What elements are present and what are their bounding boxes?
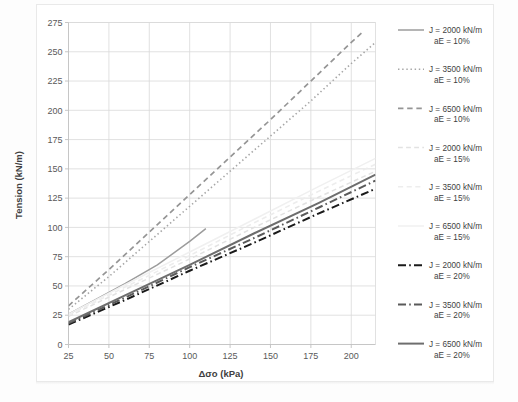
legend-entry-4[interactable]: J = 3500 kN/maE = 15% [398,183,482,203]
legend-label-line1-3: J = 2000 kN/m [429,144,482,153]
legend-label-line1-6: J = 2000 kN/m [429,261,482,270]
y-tick-label: 150 [47,164,62,174]
y-tick-labels-group: 0255075100125150175200225250275 [47,18,62,350]
page-background: 0255075100125150175200225250275 25507510… [0,0,518,402]
y-tick-label: 0 [57,340,62,350]
axes-group [65,23,376,349]
x-tick-label: 100 [182,351,197,361]
y-tick-label: 50 [52,281,62,291]
series-line-0 [69,229,206,314]
legend-label-line2-2: aE = 10% [434,115,470,124]
x-tick-label: 175 [303,351,318,361]
x-axis-title: Δσo (kPa) [199,368,244,379]
y-tick-label: 100 [47,223,62,233]
legend-label-line1-4: J = 3500 kN/m [429,183,482,192]
legend-entry-8[interactable]: J = 6500 kN/maE = 20% [398,340,482,360]
legend-label-line2-6: aE = 20% [434,272,470,281]
x-tick-label: 50 [104,351,114,361]
legend-label-line1-1: J = 3500 kN/m [429,65,482,74]
series-line-4 [69,164,376,315]
legend-label-line1-0: J = 2000 kN/m [429,26,482,35]
x-tick-label: 200 [344,351,359,361]
legend-label-line2-0: aE = 10% [434,37,470,46]
series-line-2 [69,31,365,306]
legend-entry-7[interactable]: J = 3500 kN/maE = 20% [398,301,482,321]
y-tick-label: 125 [47,193,62,203]
series-line-7 [69,181,376,324]
x-tick-label: 150 [263,351,278,361]
legend-entry-0[interactable]: J = 2000 kN/maE = 10% [398,26,482,46]
y-axis-title: Tension (kN/m) [13,151,24,219]
legend-label-line2-7: aE = 20% [434,311,470,320]
legend-group: J = 2000 kN/maE = 10%J = 3500 kN/maE = 1… [398,26,482,359]
legend-entry-3[interactable]: J = 2000 kN/maE = 15% [398,144,482,164]
y-tick-label: 25 [52,310,62,320]
legend-label-line2-4: aE = 15% [434,194,470,203]
legend-entry-1[interactable]: J = 3500 kN/maE = 10% [398,65,482,85]
legend-entry-2[interactable]: J = 6500 kN/maE = 10% [398,105,482,125]
legend-label-line2-1: aE = 10% [434,76,470,85]
legend-label-line2-8: aE = 20% [434,351,470,360]
series-line-3 [69,171,376,316]
series-line-5 [69,158,376,314]
y-tick-label: 250 [47,47,62,57]
x-tick-label: 75 [144,351,154,361]
legend-label-line1-7: J = 3500 kN/m [429,301,482,310]
chart-canvas: 0255075100125150175200225250275 25507510… [0,0,518,402]
y-tick-label: 200 [47,106,62,116]
x-tick-label: 25 [63,351,73,361]
legend-label-line1-5: J = 6500 kN/m [429,222,482,231]
legend-entry-6[interactable]: J = 2000 kN/maE = 20% [398,261,482,281]
data-series-group [69,31,376,325]
y-tick-label: 75 [52,252,62,262]
x-tick-labels-group: 255075100125150175200 [63,351,358,361]
legend-label-line1-8: J = 6500 kN/m [429,340,482,349]
gridlines-group [69,23,376,345]
legend-label-line2-5: aE = 15% [434,233,470,242]
legend-entry-5[interactable]: J = 6500 kN/maE = 15% [398,222,482,242]
legend-label-line1-2: J = 6500 kN/m [429,105,482,114]
y-tick-label: 275 [47,18,62,28]
legend-label-line2-3: aE = 15% [434,155,470,164]
y-tick-label: 225 [47,76,62,86]
y-tick-label: 175 [47,135,62,145]
x-tick-label: 125 [223,351,238,361]
series-line-1 [69,42,376,309]
series-line-8 [69,175,376,323]
